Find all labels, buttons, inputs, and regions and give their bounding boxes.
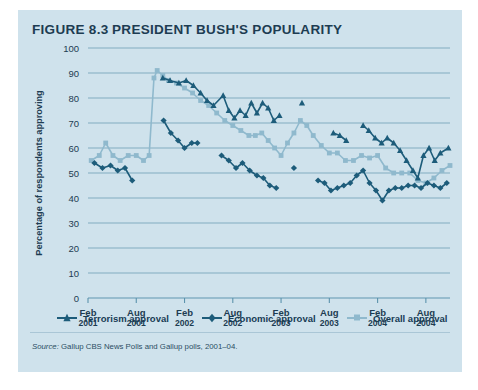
chart-legend: Terrorism approvalEconomic approvalOvera…	[56, 310, 456, 326]
data-point	[319, 143, 324, 148]
data-point	[367, 156, 372, 161]
data-point	[399, 171, 404, 176]
data-point	[341, 182, 347, 188]
data-point	[315, 177, 321, 183]
series-line	[363, 126, 448, 179]
legend-item-economic-approval[interactable]: Economic approval	[201, 310, 316, 326]
y-axis-title: Percentage of respondents approving	[34, 90, 44, 255]
data-point	[432, 176, 437, 181]
data-point	[237, 107, 243, 113]
data-point	[391, 171, 396, 176]
y-tick-label-60: 60	[68, 143, 79, 154]
data-point	[299, 100, 305, 106]
data-point	[351, 158, 356, 163]
data-point	[279, 153, 284, 158]
data-point	[134, 153, 139, 158]
data-point	[190, 91, 195, 96]
data-point	[298, 118, 303, 123]
data-point	[285, 141, 290, 146]
data-point	[405, 182, 411, 188]
data-point	[111, 153, 116, 158]
y-tick-label-0: 0	[74, 293, 79, 304]
y-tick-label-20: 20	[68, 243, 79, 254]
triangle-marker-icon	[56, 312, 78, 324]
legend-divider	[30, 332, 450, 333]
data-point	[194, 140, 200, 146]
legend-label: Terrorism approval	[83, 313, 169, 324]
data-point	[220, 92, 226, 98]
data-point	[334, 185, 340, 191]
source-note: Source: Gallup CBS News Polls and Gallup…	[32, 342, 237, 351]
y-tick-label-80: 80	[68, 93, 79, 104]
data-point	[412, 182, 418, 188]
series-line	[91, 71, 450, 184]
series-overall-approval	[89, 68, 453, 185]
data-point	[437, 150, 443, 156]
data-point	[359, 153, 364, 158]
data-point	[118, 158, 123, 163]
data-point	[440, 168, 445, 173]
y-tick-label-10: 10	[68, 268, 79, 279]
data-point	[259, 100, 265, 106]
data-point	[141, 158, 146, 163]
data-point	[155, 68, 160, 73]
y-tick-label-70: 70	[68, 118, 79, 129]
data-point	[152, 76, 157, 81]
data-point	[147, 153, 152, 158]
data-point	[431, 182, 437, 188]
data-point	[304, 123, 309, 128]
y-tick-label-40: 40	[68, 193, 79, 204]
data-point	[273, 185, 279, 191]
y-tick-label-30: 30	[68, 218, 79, 229]
data-point	[448, 163, 453, 168]
data-point	[182, 86, 187, 91]
data-point	[292, 131, 297, 136]
data-point	[343, 158, 348, 163]
data-point	[276, 112, 282, 118]
data-point	[183, 77, 189, 83]
data-point	[246, 133, 251, 138]
data-point	[126, 153, 131, 158]
data-point	[375, 153, 380, 158]
data-point	[198, 98, 203, 103]
figure-panel: FIGURE 8.3 PRESIDENT BUSH'S POPULARITY 0…	[18, 10, 462, 372]
data-point	[230, 123, 235, 128]
data-point	[335, 151, 340, 156]
data-point	[226, 107, 232, 113]
data-point	[327, 151, 332, 156]
data-point	[272, 146, 277, 151]
square-marker-icon	[346, 312, 368, 324]
legend-label: Overall approval	[373, 313, 447, 324]
data-point	[259, 131, 264, 136]
data-point	[383, 166, 388, 171]
legend-item-overall-approval[interactable]: Overall approval	[346, 310, 447, 326]
data-point	[291, 165, 297, 171]
data-point	[392, 185, 398, 191]
source-value: Gallup CBS News Polls and Gallup polls, …	[61, 342, 237, 351]
data-point	[248, 100, 254, 106]
data-point	[266, 138, 271, 143]
data-point	[222, 118, 227, 123]
y-tick-label-90: 90	[68, 68, 79, 79]
source-label: Source:	[32, 342, 59, 351]
data-point	[103, 141, 108, 146]
data-point	[214, 111, 219, 116]
y-tick-label-50: 50	[68, 168, 79, 179]
data-point	[253, 133, 258, 138]
legend-item-terrorism-approval[interactable]: Terrorism approval	[56, 310, 169, 326]
data-point	[330, 130, 336, 136]
legend-label: Economic approval	[228, 313, 316, 324]
data-point	[97, 153, 102, 158]
diamond-marker-icon	[201, 312, 223, 324]
y-tick-label-100: 100	[63, 43, 79, 54]
data-point	[384, 135, 390, 141]
data-point	[399, 185, 405, 191]
data-point	[311, 133, 316, 138]
data-point	[238, 128, 243, 133]
